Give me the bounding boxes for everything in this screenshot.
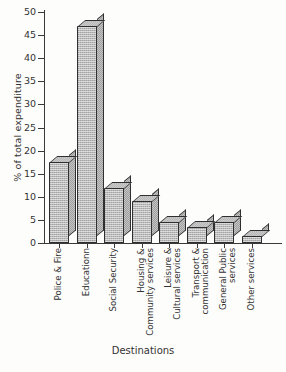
bar [132,201,152,243]
plot-area [44,0,282,243]
bar-side-face [97,13,104,236]
y-axis-tick-label: 25 [2,123,36,133]
bar [77,26,97,243]
x-axis-tick [224,243,225,248]
x-axis-tick [169,243,170,248]
x-axis-tick-label: Housing & Community services [137,248,156,336]
x-axis-tick [142,243,143,248]
bar [214,222,234,243]
y-axis-tick-labels: 05101520253035404550 [0,0,36,260]
bar-front-face [77,26,97,243]
x-axis-tick-label: Police & Fire [54,248,63,300]
bar-side-face [179,209,186,236]
x-axis-tick [59,243,60,248]
y-axis-tick-label: 5 [2,215,36,225]
y-axis-tick-label: 50 [2,7,36,17]
x-axis-tick-label: General Public services [219,248,238,310]
y-axis-tick-label: 30 [2,99,36,109]
bar-front-face [214,222,234,243]
bar-side-face [234,209,241,236]
bar [49,162,69,243]
bar [242,236,262,243]
bar-front-face [187,227,207,243]
x-axis-tick-label: Leisure & Cultural services [164,248,183,320]
y-axis-tick-label: 15 [2,169,36,179]
x-axis-line [44,243,282,244]
y-axis-tick [38,174,44,175]
x-axis-title: Destinations [0,345,286,356]
bar [104,188,124,243]
x-axis-tick [87,243,88,248]
bar-side-face [69,149,76,236]
x-axis-tick-label: Educationn [82,248,91,296]
y-axis-tick [38,104,44,105]
y-axis-tick [38,12,44,13]
y-axis-tick-label: 0 [2,238,36,248]
x-axis-tick [197,243,198,248]
bar [159,222,179,243]
y-axis-tick [38,243,44,244]
bar-front-face [159,222,179,243]
y-axis-tick [38,58,44,59]
y-axis-tick [38,220,44,221]
y-axis-tick-label: 20 [2,146,36,156]
bar-top-face [242,230,270,237]
x-axis-tick-label: Transport & communication [192,248,211,314]
y-axis-tick-label: 40 [2,53,36,63]
y-axis-tick [38,151,44,152]
bar-front-face [132,201,152,243]
bar-front-face [104,188,124,243]
y-axis-tick-label: 45 [2,30,36,40]
x-axis-tick [114,243,115,248]
bar-front-face [49,162,69,243]
y-axis-tick [38,197,44,198]
bar [187,227,207,243]
y-axis-tick [38,81,44,82]
y-axis-tick [38,35,44,36]
x-axis-tick-labels: Police & FireEducationnSocial SecurityHo… [44,248,282,348]
y-axis-tick-label: 35 [2,76,36,86]
x-axis-tick-label: Other services [247,248,256,310]
bar-front-face [242,236,262,243]
y-axis-tick [38,128,44,129]
x-axis-tick-label: Social Security [109,248,118,312]
y-axis-tick-label: 10 [2,192,36,202]
bar-chart: % of total expenditure 05101520253035404… [0,0,286,372]
x-axis-tick [252,243,253,248]
